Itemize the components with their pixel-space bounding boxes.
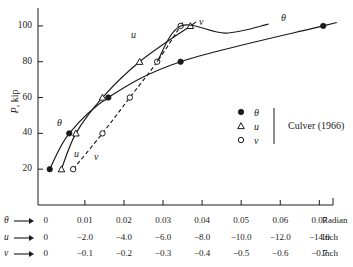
axis-unit-theta: Radian — [322, 216, 348, 225]
axis-symbol-v: v — [4, 249, 8, 259]
x-tick-label-theta: 0.05 — [221, 216, 261, 225]
svg-text:v: v — [254, 135, 259, 146]
axis-unit-u: Inch — [322, 233, 338, 242]
x-tick-label-theta: 0.03 — [143, 216, 183, 225]
x-tick-label-theta: 0.06 — [260, 216, 300, 225]
x-tick-label-v: −0.4 — [182, 249, 222, 258]
y-tick-label: 20 — [8, 164, 32, 174]
x-tick-label-theta: 0.02 — [104, 216, 144, 225]
x-tick-label-theta: 0 — [26, 216, 66, 225]
x-tick-label-u: −2.0 — [65, 233, 105, 242]
svg-text:θ: θ — [254, 107, 259, 118]
legend: θuv Culver (1966) — [234, 105, 344, 155]
chart-figure: P, kip 20406080100 θ00.010.020.030.040.0… — [0, 0, 353, 267]
x-tick-label-u: −12.0 — [260, 233, 300, 242]
x-tick-label-theta: 0.01 — [65, 216, 105, 225]
axis-symbol-u: u — [4, 233, 9, 243]
x-tick-label-v: −0.3 — [143, 249, 183, 258]
x-tick-label-u: −6.0 — [143, 233, 183, 242]
y-tick-label: 80 — [8, 57, 32, 67]
x-tick-label-v: −0.5 — [221, 249, 261, 258]
curve-label: u — [74, 149, 79, 159]
svg-text:u: u — [254, 121, 259, 132]
curve-label: θ — [281, 13, 286, 23]
curve-label: u — [131, 30, 136, 40]
curve-label: θ — [57, 118, 62, 128]
y-tick-label: 40 — [8, 128, 32, 138]
x-tick-label-v: 0 — [26, 249, 66, 258]
curve-label: v — [94, 152, 98, 162]
x-tick-label-v: −0.6 — [260, 249, 300, 258]
y-tick-label: 100 — [8, 21, 32, 31]
x-tick-label-v: −0.2 — [104, 249, 144, 258]
x-tick-label-u: −4.0 — [104, 233, 144, 242]
legend-source-label: Culver (1966) — [288, 121, 344, 131]
y-tick-label: 60 — [8, 93, 32, 103]
x-tick-label-u: −10.0 — [221, 233, 261, 242]
x-tick-label-theta: 0.04 — [182, 216, 222, 225]
axis-unit-v: Inch — [322, 249, 338, 258]
x-tick-label-u: −8.0 — [182, 233, 222, 242]
x-tick-label-u: 0 — [26, 233, 66, 242]
curve-label: v — [199, 17, 203, 27]
x-tick-label-v: −0.1 — [65, 249, 105, 258]
axis-symbol-theta: θ — [4, 216, 9, 226]
